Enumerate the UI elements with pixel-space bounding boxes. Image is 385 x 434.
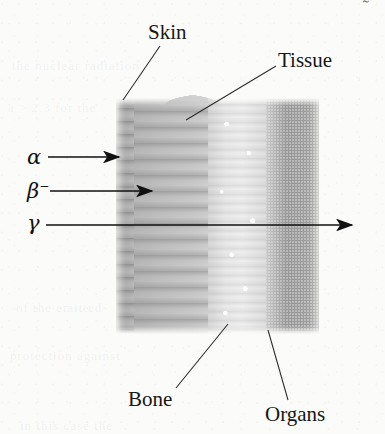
scan-corner-artifact: ˜ <box>362 0 370 18</box>
beta-symbol-label: β− <box>27 180 49 202</box>
leader-organs <box>268 330 288 400</box>
organ-shading <box>266 95 286 337</box>
beta-glyph: β <box>27 179 39 203</box>
ghost-text-line: a > 2.3 for the <box>8 100 96 116</box>
figure-page: the nuclear radiation a > 2.3 for the of… <box>0 0 385 434</box>
label-bone: Bone <box>128 389 172 410</box>
alpha-symbol-label: α <box>27 147 41 168</box>
layer-tissue <box>134 95 214 337</box>
label-skin: Skin <box>148 22 187 43</box>
gamma-glyph: γ <box>27 211 40 235</box>
ghost-text-line: in this case the <box>20 418 113 434</box>
ghost-text-line: protection against <box>10 348 121 364</box>
ghost-text-line: the nuclear radiation <box>12 58 140 74</box>
body-cross-section <box>116 95 319 337</box>
label-tissue: Tissue <box>278 50 332 71</box>
ghost-text-line: of the emitted <box>16 300 102 316</box>
layer-bone <box>208 95 270 337</box>
alpha-glyph: α <box>27 145 41 169</box>
label-organs: Organs <box>265 404 325 425</box>
beta-charge-sign: − <box>39 179 49 193</box>
gamma-symbol-label: γ <box>27 213 40 234</box>
